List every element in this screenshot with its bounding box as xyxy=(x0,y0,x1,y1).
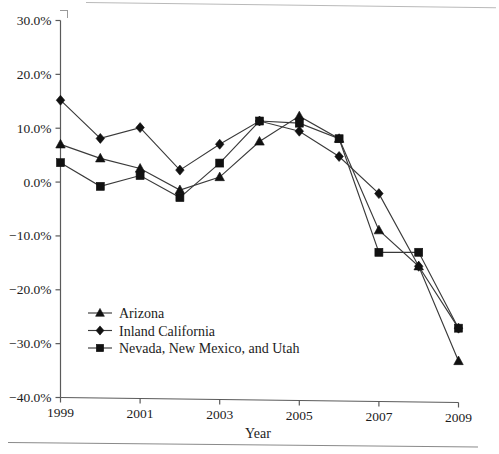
data-series xyxy=(57,117,463,332)
x-tick-label: 1999 xyxy=(47,405,74,420)
data-series-group xyxy=(56,95,464,364)
data-point-marker xyxy=(295,119,303,127)
x-tick-label: 2007 xyxy=(365,409,392,424)
data-point-marker xyxy=(96,182,104,190)
series-line xyxy=(61,100,459,328)
x-tick-label: 2003 xyxy=(206,407,233,422)
data-point-marker xyxy=(216,159,224,167)
legend-marker-square-icon xyxy=(96,344,103,351)
y-tick-label: −20.0% xyxy=(9,282,51,297)
data-series xyxy=(56,95,463,333)
data-point-marker xyxy=(256,117,264,125)
data-point-marker xyxy=(455,324,463,332)
data-point-marker xyxy=(215,139,224,149)
x-axis-line xyxy=(61,398,459,403)
x-tick-label: 2005 xyxy=(286,408,313,423)
data-point-marker xyxy=(415,248,423,256)
y-axis: 30.0%20.0%10.0%0.0%−10.0%−20.0%−30.0%−40… xyxy=(9,13,60,405)
data-series xyxy=(56,111,464,365)
data-point-marker xyxy=(57,159,65,167)
x-tick-label: 2001 xyxy=(127,406,154,421)
x-axis: 199920012003200520072009 xyxy=(47,398,472,425)
y-tick-label: 30.0% xyxy=(17,13,52,28)
data-point-marker xyxy=(454,356,464,365)
data-point-marker xyxy=(56,139,66,148)
data-point-marker xyxy=(136,172,144,180)
chart-legend: ArizonaInland CaliforniaNevada, New Mexi… xyxy=(88,306,299,356)
legend-label: Inland California xyxy=(119,324,216,339)
y-tick-label: 0.0% xyxy=(23,175,51,190)
legend-entry: Inland California xyxy=(88,324,216,339)
legend-marker-triangle-icon xyxy=(96,308,105,316)
legend-entry: Nevada, New Mexico, and Utah xyxy=(88,341,299,356)
data-point-marker xyxy=(176,194,184,202)
legend-label: Arizona xyxy=(119,306,165,321)
data-point-marker xyxy=(374,225,384,234)
series-line xyxy=(61,121,459,328)
y-tick-label: 20.0% xyxy=(17,67,52,82)
legend-marker-diamond-icon xyxy=(96,326,104,335)
figure-container: 30.0%20.0%10.0%0.0%−10.0%−20.0%−30.0%−40… xyxy=(0,0,499,454)
y-tick-label: −30.0% xyxy=(9,336,51,351)
x-tick-label: 2009 xyxy=(445,410,472,425)
data-point-marker xyxy=(295,111,305,120)
legend-entry: Arizona xyxy=(88,306,165,321)
data-point-marker xyxy=(335,135,343,143)
line-chart: 30.0%20.0%10.0%0.0%−10.0%−20.0%−30.0%−40… xyxy=(0,0,499,454)
data-point-marker xyxy=(255,136,265,145)
y-tick-label: 10.0% xyxy=(17,121,52,136)
data-point-marker xyxy=(295,126,304,136)
y-tick-label: −10.0% xyxy=(9,228,51,243)
y-tick-label: −40.0% xyxy=(9,390,51,405)
data-point-marker xyxy=(375,248,383,256)
x-axis-title: Year xyxy=(245,426,271,441)
legend-label: Nevada, New Mexico, and Utah xyxy=(119,341,299,356)
page-corner-mark xyxy=(60,10,68,18)
